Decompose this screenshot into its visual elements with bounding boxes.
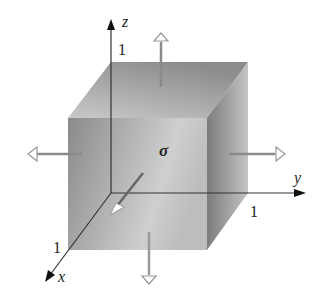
z-axis-label: z <box>121 13 129 30</box>
y-axis-tick: 1 <box>250 203 258 220</box>
y-axis-label: y <box>292 169 302 187</box>
stress-sigma-label: σ <box>159 141 169 160</box>
cube-front-face <box>68 118 207 250</box>
x-axis-label: x <box>57 268 65 285</box>
z-axis-arrowhead-icon <box>107 19 115 30</box>
y-axis-arrowhead-icon <box>294 189 306 197</box>
z-axis-tick: 1 <box>118 41 126 58</box>
x-axis-tick: 1 <box>53 239 61 256</box>
x-axis-arrowhead-icon <box>45 270 55 282</box>
stress-cube-diagram: z 1 y 1 1 x σ <box>0 0 315 291</box>
